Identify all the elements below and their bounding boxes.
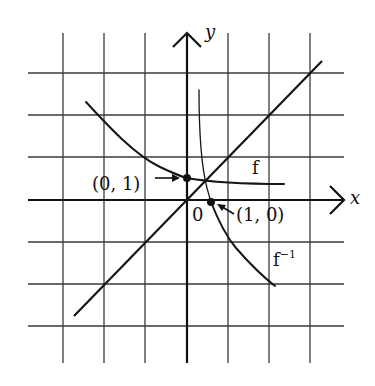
function-inverse-diagram: x y 0 f f−1 (0, 1) (1, 0) [0,0,375,386]
origin-label: 0 [192,204,203,225]
point-0-1-marker [183,174,191,182]
point-1-0-arrow-icon [217,204,234,214]
point-1-0-marker [207,198,215,206]
point-0-1-label: (0, 1) [92,173,140,194]
y-axis-label: y [204,21,216,42]
y-axis [173,33,201,363]
curve-f-inverse-label: f−1 [273,248,296,270]
curve-f-label: f [252,157,260,178]
x-axis-label: x [350,187,360,208]
point-1-0-label: (1, 0) [236,204,284,225]
